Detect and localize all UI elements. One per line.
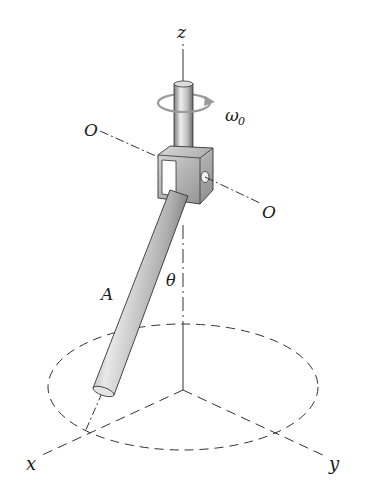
pivot-left-label: O bbox=[84, 120, 98, 140]
omega-label: ω bbox=[225, 105, 239, 125]
x-axis-line bbox=[40, 390, 183, 456]
diagram-canvas: z ω 0 O O A θ x y bbox=[0, 0, 367, 504]
vertical-shaft bbox=[174, 84, 193, 150]
y-axis-line bbox=[183, 390, 327, 457]
pivot-right-label: O bbox=[262, 202, 276, 222]
rod-axis-extension bbox=[85, 393, 102, 432]
z-axis-label: z bbox=[176, 22, 187, 42]
pivot-axis-right bbox=[205, 177, 262, 204]
y-axis-label: y bbox=[328, 453, 340, 474]
point-a-label: A bbox=[99, 284, 113, 304]
rotating-rod-diagram: z ω 0 O O A θ x y bbox=[0, 0, 367, 504]
pivot-axis-left bbox=[100, 131, 158, 157]
theta-label: θ bbox=[166, 271, 176, 290]
x-axis-label: x bbox=[26, 453, 36, 474]
omega-subscript: 0 bbox=[238, 115, 245, 128]
